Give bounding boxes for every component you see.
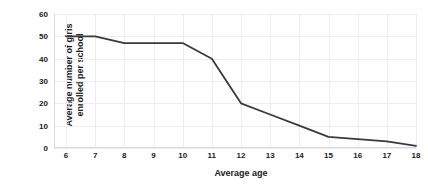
series-line-enrollment	[54, 14, 416, 148]
y-tick-label: 40	[28, 54, 48, 63]
x-tick-label: 8	[112, 151, 136, 160]
y-tick-label: 20	[28, 99, 48, 108]
x-tick-label: 13	[258, 151, 282, 160]
y-tick-label: 10	[28, 121, 48, 130]
x-tick-label: 10	[171, 151, 195, 160]
x-tick-label: 17	[375, 151, 399, 160]
gridline-vertical	[416, 14, 417, 148]
line-chart: Average number of girls enrolled per sch…	[0, 0, 428, 188]
x-tick-label: 12	[229, 151, 253, 160]
x-tick-label: 9	[142, 151, 166, 160]
x-tick-label: 18	[404, 151, 428, 160]
y-tick-label: 30	[28, 77, 48, 86]
plot-area	[54, 14, 416, 148]
x-tick-label: 6	[54, 151, 78, 160]
x-axis-title: Average age	[54, 168, 428, 178]
x-tick-label: 16	[346, 151, 370, 160]
x-tick-label: 11	[200, 151, 224, 160]
x-tick-label: 7	[83, 151, 107, 160]
x-tick-label: 14	[287, 151, 311, 160]
x-tick-label: 15	[317, 151, 341, 160]
y-tick-label: 0	[28, 144, 48, 153]
gridline-horizontal	[54, 148, 416, 149]
y-tick-label: 50	[28, 32, 48, 41]
y-axis-tick-labels: 0102030405060	[26, 14, 48, 148]
series-polyline	[66, 36, 416, 145]
y-tick-label: 60	[28, 10, 48, 19]
x-axis-tick-labels: 6789101112131415161718	[54, 151, 416, 163]
